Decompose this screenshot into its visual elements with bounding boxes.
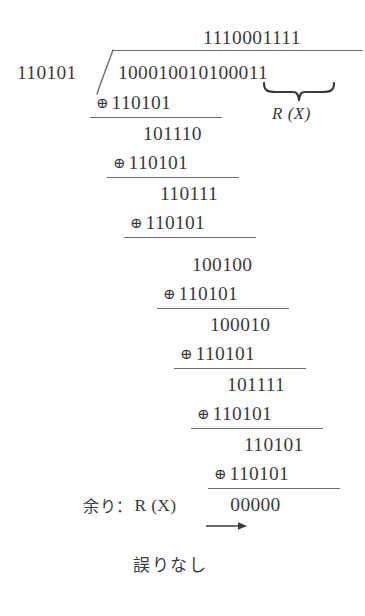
- xor-row-3: ⊕ 110101: [130, 212, 205, 234]
- xor-icon-1: ⊕: [96, 96, 109, 111]
- remainder-value: 00000: [230, 494, 280, 516]
- xor-operand-1: 110101: [112, 92, 172, 114]
- xor-icon-7: ⊕: [214, 467, 227, 482]
- division-vinculum: [112, 50, 363, 51]
- xor-icon-5: ⊕: [180, 347, 193, 362]
- remainder-row: 余り： R (X) 00000: [83, 493, 281, 517]
- step-result-6: 110101: [244, 435, 304, 455]
- underbrace-icon: [263, 82, 335, 102]
- xor-row-5: ⊕ 110101: [180, 343, 255, 365]
- xor-operand-5: 110101: [196, 343, 256, 365]
- xor-icon-6: ⊕: [197, 407, 210, 422]
- xor-icon-3: ⊕: [130, 216, 143, 231]
- step-result-5: 101111: [227, 375, 285, 395]
- xor-operand-6: 110101: [213, 403, 273, 425]
- xor-operand-7: 110101: [230, 463, 290, 485]
- step-rule-4: [157, 308, 289, 309]
- remainder-label: 余り：: [83, 493, 133, 517]
- xor-operand-2: 110101: [129, 152, 189, 174]
- step-rule-2: [107, 177, 239, 178]
- xor-row-7: ⊕ 110101: [214, 463, 289, 485]
- xor-icon-2: ⊕: [113, 156, 126, 171]
- step-result-4: 100010: [210, 315, 270, 335]
- xor-icon-4: ⊕: [163, 287, 176, 302]
- dividend-value: 100010010100011: [118, 63, 268, 83]
- remainder-symbol: R (X): [135, 495, 177, 516]
- division-bracket-icon: [96, 50, 118, 96]
- xor-row-4: ⊕ 110101: [163, 283, 238, 305]
- step-result-2: 110111: [160, 184, 218, 204]
- step-result-3: 100100: [192, 255, 252, 275]
- remainder-brace-label: R (X): [272, 104, 311, 124]
- step-rule-3: [124, 237, 256, 238]
- conclusion-text: 誤りなし: [133, 551, 207, 576]
- xor-operand-4: 110101: [179, 283, 239, 305]
- arrow-icon: [182, 500, 224, 510]
- xor-operand-3: 110101: [146, 212, 206, 234]
- divisor-value: 110101: [17, 63, 77, 83]
- quotient-value: 1110001111: [203, 28, 301, 48]
- step-rule-7: [208, 488, 340, 489]
- xor-row-6: ⊕ 110101: [197, 403, 272, 425]
- step-rule-6: [191, 428, 323, 429]
- xor-row-1: ⊕ 110101: [96, 92, 171, 114]
- step-result-1: 101110: [143, 124, 202, 144]
- step-rule-5: [174, 368, 306, 369]
- step-rule-1: [90, 117, 222, 118]
- xor-row-2: ⊕ 110101: [113, 152, 188, 174]
- cyclic-redundancy-check-division-figure: 1110001111 110101 100010010100011 R (X) …: [0, 0, 365, 616]
